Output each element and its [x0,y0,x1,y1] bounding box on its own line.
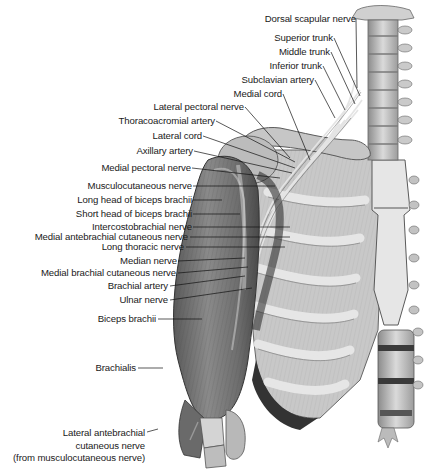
label-medial-brachial-cutaneous-nerve: Medial brachial cutaneous nerve [41,267,176,278]
label-musculocutaneous-nerve: Musculocutaneous nerve [88,180,192,191]
label-biceps-brachii: Biceps brachii [98,313,156,324]
label-dorsal-scapular-nerve: Dorsal scapular nerve [265,13,356,24]
label-inferior-trunk: Inferior trunk [270,60,322,71]
label-middle-trunk: Middle trunk [279,46,330,57]
label-axillary-artery: Axillary artery [136,145,193,156]
label-median-nerve: Median nerve [120,255,177,266]
label-lateral-antebrachial-cutaneous-nerve-line3: (from musculocutaneous nerve) [13,452,145,463]
sternum [372,160,419,325]
label-brachial-artery: Brachial artery [108,280,168,291]
label-thoracoacromial-artery: Thoracoacromial artery [119,115,215,126]
leader-middle-trunk [331,52,355,104]
label-lateral-pectoral-nerve: Lateral pectoral nerve [153,101,244,112]
label-medial-cord: Medial cord [234,88,283,99]
leader-lateral-antebrachial-cutaneous-nerve [147,429,158,432]
label-subclavian-artery: Subclavian artery [242,74,314,85]
label-lateral-antebrachial-cutaneous-nerve: Lateral antebrachial [63,427,145,438]
label-long-head-of-biceps-brachii: Long head of biceps brachii [77,194,192,205]
lower-spine [378,328,423,448]
anatomy-figure: Dorsal scapular nerveSuperior trunkMiddl… [0,0,441,469]
leader-dorsal-scapular-nerve [356,19,357,88]
label-long-thoracic-nerve: Long thoracic nerve [102,241,184,252]
leader-inferior-trunk [323,66,345,110]
label-short-head-of-biceps-brachii: Short head of biceps brachii [76,208,192,219]
label-lateral-cord: Lateral cord [153,130,202,141]
cervical-spine [352,6,414,161]
label-superior-trunk: Superior trunk [274,32,333,43]
label-medial-pectoral-nerve: Medial pectoral nerve [101,162,191,173]
label-brachialis: Brachialis [95,362,136,373]
label-lateral-antebrachial-cutaneous-nerve-line2: cutaneous nerve [76,440,145,451]
leader-subclavian-artery [315,80,335,118]
label-ulnar-nerve: Ulnar nerve [120,294,169,305]
